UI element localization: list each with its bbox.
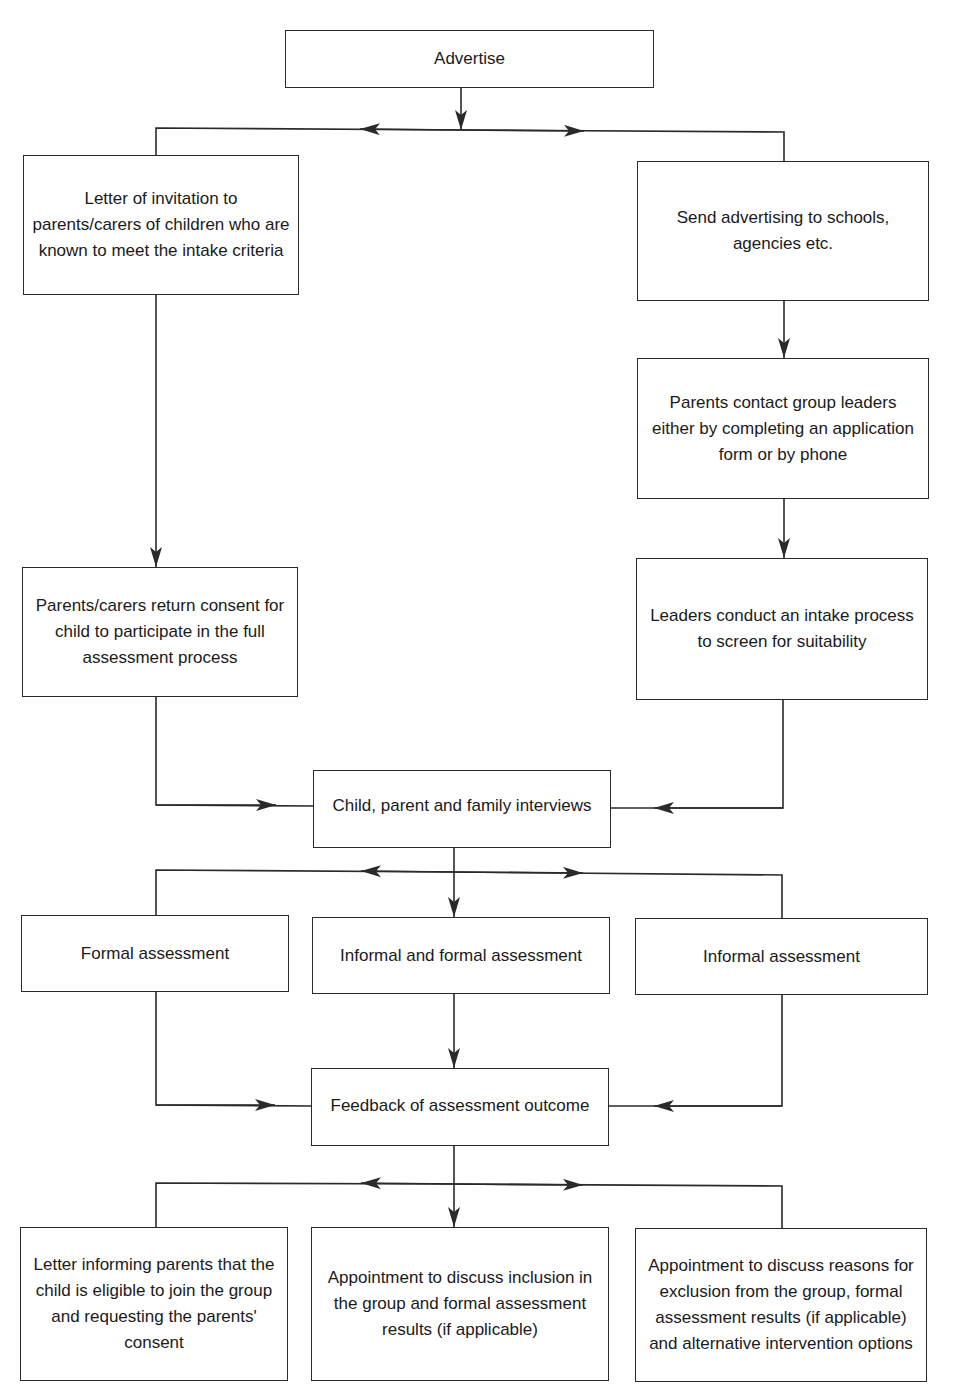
node-informal-formal-assessment-label: Informal and formal assessment	[340, 943, 582, 969]
node-parents-contact: Parents contact group leaders either by …	[637, 358, 929, 499]
connector-to-send-advertising	[461, 130, 784, 162]
node-advertise: Advertise	[285, 30, 654, 88]
node-informal-assessment-label: Informal assessment	[703, 944, 860, 970]
node-feedback: Feedback of assessment outcome	[311, 1068, 609, 1146]
connector-to-letter-invitation	[156, 128, 461, 155]
connector-formal-to-feedback	[156, 992, 311, 1106]
node-return-consent: Parents/carers return consent for child …	[22, 567, 298, 697]
node-informal-assessment: Informal assessment	[635, 918, 928, 995]
node-letter-eligible: Letter informing parents that the child …	[20, 1227, 288, 1381]
connector-intake-to-interviews	[610, 700, 783, 808]
node-interviews: Child, parent and family interviews	[313, 770, 611, 848]
node-letter-invitation: Letter of invitation to parents/carers o…	[23, 155, 299, 295]
node-letter-invitation-label: Letter of invitation to parents/carers o…	[32, 186, 290, 264]
node-appointment-exclusion: Appointment to discuss reasons for exclu…	[635, 1228, 927, 1382]
node-formal-assessment: Formal assessment	[21, 915, 289, 992]
node-appointment-inclusion-label: Appointment to discuss inclusion in the …	[320, 1265, 600, 1343]
node-leaders-intake: Leaders conduct an intake process to scr…	[636, 558, 928, 700]
connector-consent-to-interviews	[156, 696, 313, 806]
node-feedback-label: Feedback of assessment outcome	[331, 1093, 590, 1119]
node-appointment-exclusion-label: Appointment to discuss reasons for exclu…	[644, 1253, 918, 1357]
node-interviews-label: Child, parent and family interviews	[333, 793, 592, 819]
connector-informal-to-feedback	[608, 995, 782, 1106]
node-formal-assessment-label: Formal assessment	[81, 941, 229, 967]
node-letter-eligible-label: Letter informing parents that the child …	[29, 1252, 279, 1356]
node-send-advertising: Send advertising to schools, agencies et…	[637, 161, 929, 301]
node-appointment-inclusion: Appointment to discuss inclusion in the …	[311, 1227, 609, 1381]
node-informal-formal-assessment: Informal and formal assessment	[312, 917, 610, 994]
node-return-consent-label: Parents/carers return consent for child …	[31, 593, 289, 671]
node-leaders-intake-label: Leaders conduct an intake process to scr…	[645, 603, 919, 655]
node-parents-contact-label: Parents contact group leaders either by …	[646, 390, 920, 468]
node-send-advertising-label: Send advertising to schools, agencies et…	[646, 205, 920, 257]
node-advertise-label: Advertise	[434, 46, 505, 72]
